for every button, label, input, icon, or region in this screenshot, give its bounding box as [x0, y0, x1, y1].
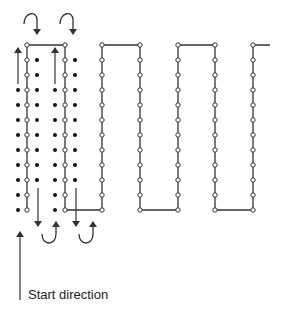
- waypoint-circle: [251, 133, 255, 137]
- waypoint-circle: [25, 73, 29, 77]
- waypoint-circle: [213, 133, 217, 137]
- waypoint-circle: [25, 133, 29, 137]
- plant-dot: [73, 73, 77, 77]
- waypoint-circle: [25, 103, 29, 107]
- plant-dot: [73, 163, 77, 167]
- uturn-up-arrow-icon: [42, 222, 56, 243]
- plant-dot: [35, 178, 39, 182]
- waypoint-circle: [63, 73, 67, 77]
- serpentine-path: [27, 45, 270, 210]
- waypoint-circle: [63, 133, 67, 137]
- waypoint-circle: [25, 43, 29, 47]
- plant-dot: [35, 103, 39, 107]
- waypoint-circle: [138, 208, 142, 212]
- plant-dot: [16, 208, 20, 212]
- waypoint-circle: [63, 178, 67, 182]
- plant-dot: [35, 73, 39, 77]
- plant-dot: [16, 178, 20, 182]
- waypoint-circle: [176, 193, 180, 197]
- waypoint-circle: [251, 163, 255, 167]
- waypoint-circle: [176, 163, 180, 167]
- plant-dot: [16, 133, 20, 137]
- waypoint-circle: [63, 208, 67, 212]
- waypoint-circle: [63, 118, 67, 122]
- waypoint-circle: [138, 58, 142, 62]
- waypoint-circle: [100, 193, 104, 197]
- waypoint-circle: [251, 208, 255, 212]
- waypoint-circle: [25, 88, 29, 92]
- waypoint-circle: [63, 58, 67, 62]
- waypoint-circle: [251, 178, 255, 182]
- waypoint-circle: [251, 88, 255, 92]
- plant-dot: [35, 58, 39, 62]
- waypoint-circle: [176, 88, 180, 92]
- waypoint-circle: [176, 178, 180, 182]
- waypoint-circle: [251, 58, 255, 62]
- plant-dot: [53, 103, 57, 107]
- plant-dot: [53, 208, 57, 212]
- waypoint-circle: [251, 148, 255, 152]
- waypoint-circle: [213, 208, 217, 212]
- waypoint-circle: [25, 118, 29, 122]
- waypoint-circle: [100, 148, 104, 152]
- waypoint-circle: [100, 58, 104, 62]
- waypoint-circle: [213, 163, 217, 167]
- plant-dot: [16, 103, 20, 107]
- waypoint-circle: [25, 208, 29, 212]
- waypoint-circle: [213, 148, 217, 152]
- plant-dot: [73, 148, 77, 152]
- waypoint-circle: [63, 148, 67, 152]
- plant-dot: [35, 88, 39, 92]
- waypoint-circle: [100, 88, 104, 92]
- plant-dot: [35, 148, 39, 152]
- waypoint-circle: [138, 178, 142, 182]
- plant-dot: [73, 178, 77, 182]
- waypoint-circle: [100, 43, 104, 47]
- waypoint-circle: [138, 73, 142, 77]
- uturn-down-arrow-icon: [60, 14, 73, 34]
- plant-dot: [73, 103, 77, 107]
- plant-dot: [73, 118, 77, 122]
- plant-dot: [73, 58, 77, 62]
- waypoint-circle: [100, 118, 104, 122]
- waypoint-circle: [63, 193, 67, 197]
- waypoint-circle: [213, 103, 217, 107]
- waypoint-circle: [213, 193, 217, 197]
- start-direction-label: Start direction: [28, 287, 108, 302]
- waypoint-circle: [251, 118, 255, 122]
- waypoint-circle: [63, 43, 67, 47]
- plant-dot: [35, 118, 39, 122]
- waypoint-circle: [25, 163, 29, 167]
- waypoint-circle: [100, 103, 104, 107]
- plant-dot: [53, 88, 57, 92]
- plant-dot: [53, 133, 57, 137]
- waypoint-circle: [213, 178, 217, 182]
- waypoint-circle: [100, 133, 104, 137]
- plant-dot: [16, 88, 20, 92]
- waypoint-circle: [63, 103, 67, 107]
- waypoint-circle: [251, 43, 255, 47]
- plant-dot: [53, 118, 57, 122]
- waypoint-circle: [213, 58, 217, 62]
- waypoint-circle: [138, 43, 142, 47]
- waypoint-circle: [176, 148, 180, 152]
- waypoint-circle: [213, 43, 217, 47]
- waypoint-circle: [63, 88, 67, 92]
- plant-dot: [16, 193, 20, 197]
- waypoint-circle: [176, 133, 180, 137]
- waypoint-circle: [213, 73, 217, 77]
- waypoint-circle: [138, 163, 142, 167]
- waypoint-circle: [176, 103, 180, 107]
- plant-dot: [16, 163, 20, 167]
- plant-dot: [35, 133, 39, 137]
- plant-dot: [35, 163, 39, 167]
- plant-dot: [53, 163, 57, 167]
- waypoint-circle: [176, 73, 180, 77]
- waypoint-circle: [138, 133, 142, 137]
- waypoint-circle: [138, 118, 142, 122]
- waypoint-circle: [213, 118, 217, 122]
- waypoint-circle: [213, 88, 217, 92]
- waypoint-circle: [176, 43, 180, 47]
- uturn-down-arrow-icon: [24, 14, 37, 34]
- plant-dot: [73, 133, 77, 137]
